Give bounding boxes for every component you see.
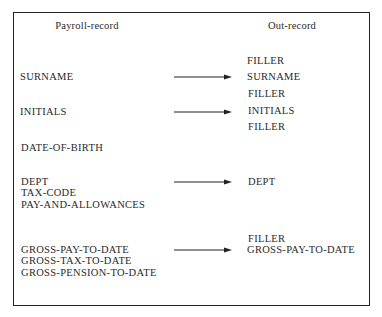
out-record-header: Out-record bbox=[268, 20, 316, 32]
payroll-record-header: Payroll-record bbox=[55, 20, 118, 32]
payroll-field-tax-code: TAX-CODE bbox=[21, 187, 76, 199]
out-field-gross-pay-to-date: GROSS-PAY-TO-DATE bbox=[247, 244, 355, 256]
payroll-field-pay-and-allowances: PAY-AND-ALLOWANCES bbox=[21, 199, 145, 211]
payroll-field-initials: INITIALS bbox=[20, 106, 67, 118]
arrow-right-icon bbox=[174, 73, 232, 81]
out-field-filler: FILLER bbox=[248, 121, 285, 133]
out-field-filler: FILLER bbox=[247, 55, 284, 67]
payroll-field-gross-pension-to-date: GROSS-PENSION-TO-DATE bbox=[21, 267, 157, 279]
out-field-dept: DEPT bbox=[248, 176, 275, 188]
out-field-initials: INITIALS bbox=[248, 105, 295, 117]
payroll-field-date-of-birth: DATE-OF-BIRTH bbox=[21, 142, 103, 154]
payroll-field-surname: SURNAME bbox=[20, 71, 73, 83]
payroll-field-gross-tax-to-date: GROSS-TAX-TO-DATE bbox=[21, 255, 132, 267]
arrow-right-icon bbox=[174, 178, 232, 186]
out-field-surname: SURNAME bbox=[247, 71, 300, 83]
arrow-right-icon bbox=[174, 246, 232, 254]
arrow-right-icon bbox=[174, 108, 232, 116]
out-field-filler: FILLER bbox=[248, 88, 285, 100]
